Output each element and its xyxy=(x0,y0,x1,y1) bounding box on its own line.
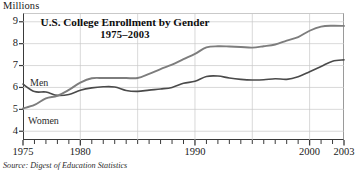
chart-title: U.S. College Enrollment by Gender xyxy=(30,16,220,29)
y-tick-label: 6 xyxy=(0,82,18,93)
x-tick-label: 1990 xyxy=(184,146,205,157)
x-tick-label: 1980 xyxy=(70,146,91,157)
x-tick-label: 2000 xyxy=(299,146,320,157)
series-label-men: Men xyxy=(30,77,48,88)
source-note: Source: Digest of Education Statistics xyxy=(3,161,127,170)
x-axis-tick-marks xyxy=(23,140,344,146)
y-tick-label: 9 xyxy=(0,16,18,27)
y-tick-label: 4 xyxy=(0,126,18,137)
x-tick-label: 1975 xyxy=(13,146,34,157)
x-tick-label: 2003 xyxy=(334,146,355,157)
y-tick-label: 8 xyxy=(0,38,18,49)
y-axis-tick-marks xyxy=(19,22,23,131)
chart-subtitle: 1975–2003 xyxy=(30,29,220,41)
y-tick-label: 7 xyxy=(0,60,18,71)
y-tick-label: 5 xyxy=(0,104,18,115)
series-label-women: Women xyxy=(28,115,59,126)
